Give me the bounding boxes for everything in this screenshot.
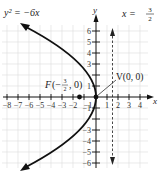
svg-text:, 0): , 0)	[69, 79, 82, 91]
y-axis-label: y	[92, 5, 97, 15]
svg-text:1: 1	[105, 101, 109, 110]
x-tick-labels: −8 −7 −6 −5 −4 −3 −2 −1 1 2 3 4	[3, 101, 142, 110]
svg-text:−2: −2	[69, 101, 78, 110]
equation-label: y² = −6x	[3, 7, 40, 18]
svg-text:−5: −5	[36, 101, 45, 110]
svg-text:1: 1	[87, 82, 91, 91]
svg-text:2: 2	[116, 101, 120, 110]
svg-text:−1: −1	[82, 104, 91, 113]
svg-text:−4: −4	[47, 101, 56, 110]
svg-text:−8: −8	[3, 101, 12, 110]
focus-label: F (− 3 2 , 0)	[44, 78, 82, 92]
svg-text:(−: (−	[52, 79, 61, 91]
svg-text:3: 3	[127, 101, 131, 110]
svg-text:3: 3	[87, 60, 91, 69]
x-axis-label: x	[152, 96, 157, 106]
svg-text:2: 2	[148, 15, 152, 23]
svg-text:4: 4	[138, 101, 142, 110]
curve-bottom-arrow-icon	[20, 163, 30, 171]
svg-text:5: 5	[87, 38, 91, 47]
svg-text:6: 6	[87, 27, 91, 36]
svg-text:4: 4	[87, 49, 91, 58]
svg-text:−6: −6	[82, 159, 91, 168]
vertex-label: V(0, 0)	[116, 72, 143, 83]
vertex-leader-line	[97, 80, 116, 96]
svg-text:−3: −3	[82, 126, 91, 135]
svg-text:−4: −4	[82, 137, 91, 146]
svg-text:2: 2	[64, 86, 67, 92]
svg-text:F: F	[44, 79, 52, 90]
svg-text:−5: −5	[82, 148, 91, 157]
svg-text:3: 3	[148, 6, 152, 14]
svg-text:x =: x =	[121, 8, 136, 19]
svg-text:3: 3	[64, 78, 67, 84]
directrix-label: x = 3 2	[121, 6, 154, 23]
curve-top-arrow-icon	[20, 23, 30, 31]
parabola-diagram: x y −8 −7 −6 −5 −4 −3 −2 −1 1 2 3 4 6 5 …	[0, 0, 161, 172]
focus-point	[77, 95, 82, 100]
directrix-up-arrow-icon	[110, 28, 115, 36]
y-axis-arrow-icon	[94, 14, 99, 22]
svg-text:−6: −6	[25, 101, 34, 110]
directrix-down-arrow-icon	[110, 157, 115, 165]
svg-text:−3: −3	[58, 101, 67, 110]
svg-text:−7: −7	[14, 101, 23, 110]
